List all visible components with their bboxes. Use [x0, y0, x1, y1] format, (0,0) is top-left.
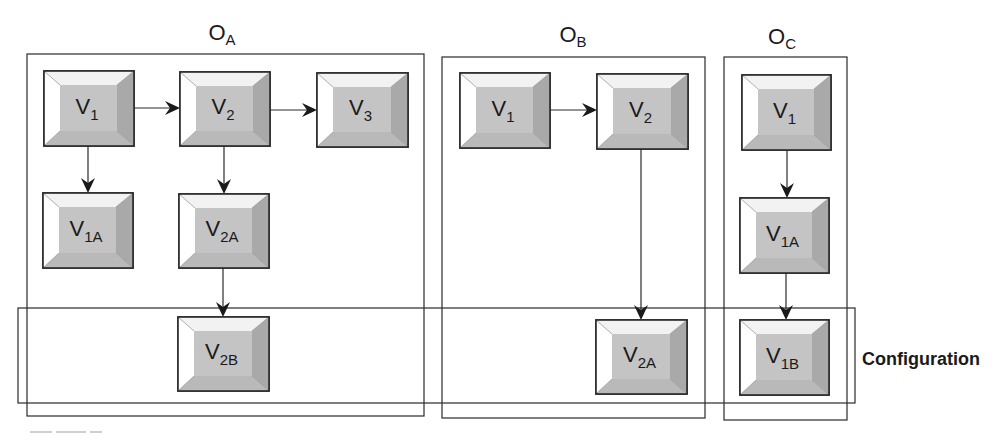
node-oa_v1[interactable]: V1 [44, 71, 134, 146]
configuration-label: Configuration [862, 349, 980, 370]
edge-oa_v1-to-oa_v1a [81, 146, 95, 193]
container-title: OB [559, 22, 586, 50]
node-oa_v3[interactable]: V3 [317, 73, 408, 147]
node-oa_v2a[interactable]: V2A [179, 194, 269, 268]
container-title: OC [768, 24, 796, 52]
configuration-rect [18, 308, 855, 403]
containers-layer: OAOBOC [27, 20, 847, 420]
edge-oa_v1-to-oa_v2 [134, 101, 180, 115]
node-oc_v1a[interactable]: V1A [740, 198, 829, 273]
node-ob_v1[interactable]: V1 [460, 73, 550, 148]
edge-oc_v1a-to-oc_v1b [779, 273, 793, 320]
diagram-canvas: OAOBOC V1V2V3V1AV2AV2BV1V2V2AV1V1AV1B [0, 0, 1007, 433]
cropped-caption-fragment [30, 425, 125, 433]
configuration-band [18, 308, 855, 403]
node-oa_v2[interactable]: V2 [180, 72, 270, 146]
edge-oa_v2-to-oa_v3 [270, 103, 317, 117]
container-title: OA [208, 20, 235, 48]
nodes-layer: V1V2V3V1AV2AV2BV1V2V2AV1V1AV1B [43, 71, 831, 395]
edge-oc_v1-to-oc_v1a [780, 150, 794, 198]
edge-ob_v1-to-ob_v2 [550, 103, 597, 117]
edge-oa_v2a-to-oa_v2b [216, 268, 230, 317]
edge-oa_v2-to-oa_v2a [217, 146, 231, 194]
edge-ob_v2-to-ob_v2a [634, 149, 648, 320]
node-oa_v1a[interactable]: V1A [43, 193, 133, 268]
node-oc_v1b[interactable]: V1B [740, 320, 829, 395]
node-ob_v2a[interactable]: V2A [596, 320, 687, 394]
node-ob_v2[interactable]: V2 [597, 74, 688, 149]
node-oa_v2b[interactable]: V2B [178, 317, 269, 391]
node-oc_v1[interactable]: V1 [742, 75, 831, 150]
